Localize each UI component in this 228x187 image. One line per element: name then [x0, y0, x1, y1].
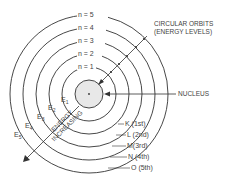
label-n1: n = 1 [77, 63, 95, 70]
shell-n: N (4th) [128, 153, 149, 160]
nucleus-label: NUCLEUS [178, 91, 209, 98]
shell-o: O (5th) [131, 164, 153, 171]
orbits-label-line1: CIRCULAR ORBITS [154, 21, 213, 28]
nucleus-arrow-icon [104, 92, 110, 97]
shell-m: M(3rd) [127, 142, 148, 149]
label-n5: n = 5 [77, 11, 95, 18]
label-n3: n = 3 [77, 37, 95, 44]
shell-k: K (1st) [125, 120, 146, 127]
energy-e3: E3 [37, 113, 44, 122]
energy-e4: E4 [25, 122, 32, 131]
orbits-label-line2: (ENERGY LEVELS) [154, 29, 212, 36]
energy-e1: E1 [61, 96, 68, 105]
shell-l: L (2nd) [127, 131, 149, 138]
label-n2: n = 2 [77, 50, 95, 57]
energy-e2: E2 [48, 104, 55, 113]
label-n4: n = 4 [77, 24, 95, 31]
energy-e5: E5 [14, 131, 21, 140]
